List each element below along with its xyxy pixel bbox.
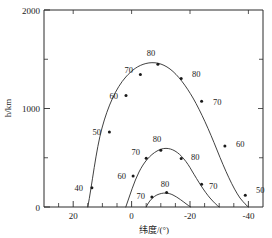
marker-mid-70 xyxy=(145,157,148,160)
point-label-mid-60: 60 xyxy=(118,171,127,181)
marker-mid-80-right xyxy=(180,157,183,160)
y-axis-ticks xyxy=(44,10,263,207)
point-label-outer-50-right: 50 xyxy=(256,185,265,195)
x-axis-tick-labels: 20 0 -20 -40 xyxy=(69,211,255,221)
marker-outer-80-left xyxy=(156,63,159,66)
x-axis-title: 纬度/(°) xyxy=(139,224,169,235)
chart-container: 0 1000 2000 h/km xyxy=(0,0,272,238)
point-label-mid-80-right: 80 xyxy=(191,152,200,162)
point-label-outer-70: 70 xyxy=(125,65,134,75)
point-label-outer-60-right: 60 xyxy=(236,139,245,149)
point-label-inner-80: 80 xyxy=(161,179,170,189)
axis-frame-top-right xyxy=(44,10,263,207)
marker-outer-80-right xyxy=(180,77,183,80)
marker-outer-50-right xyxy=(244,194,247,197)
point-label-outer-60: 60 xyxy=(110,91,119,101)
marker-mid-60 xyxy=(132,175,135,178)
point-label-mid-70-right: 70 xyxy=(209,181,218,191)
latitude-height-trajectory-chart: 0 1000 2000 h/km xyxy=(0,0,272,238)
x-tick-label-0: 0 xyxy=(129,211,134,221)
marker-mid-70-right xyxy=(200,183,203,186)
axis-frame-left-bottom xyxy=(44,10,263,207)
y-tick-label-1000: 1000 xyxy=(22,104,41,114)
x-tick-label-minus20: -20 xyxy=(184,211,196,221)
trajectory-outer-markers xyxy=(90,63,246,197)
y-tick-label-0: 0 xyxy=(36,203,41,213)
marker-outer-70 xyxy=(139,73,142,76)
y-axis-tick-labels: 0 1000 2000 xyxy=(22,6,41,213)
point-label-outer-80-right: 80 xyxy=(192,69,201,79)
marker-outer-40 xyxy=(90,186,93,189)
marker-inner-70 xyxy=(150,196,153,199)
trajectory-curve-inner xyxy=(146,193,191,207)
marker-mid-80-left xyxy=(159,149,162,152)
point-label-outer-70-right: 70 xyxy=(213,97,222,107)
trajectory-outer-labels: 40 50 60 70 80 80 70 60 50 xyxy=(75,48,265,195)
marker-inner-80 xyxy=(165,191,168,194)
point-label-outer-80-top: 80 xyxy=(147,48,156,58)
x-tick-label-20: 20 xyxy=(69,211,79,221)
point-label-outer-40: 40 xyxy=(75,183,84,193)
marker-outer-50 xyxy=(108,131,111,134)
x-tick-label-minus40: -40 xyxy=(242,211,254,221)
trajectory-inner-markers xyxy=(150,191,168,199)
point-label-outer-50: 50 xyxy=(93,127,102,137)
y-tick-label-2000: 2000 xyxy=(22,6,41,16)
marker-outer-70-right xyxy=(200,100,203,103)
marker-outer-60 xyxy=(125,94,128,97)
y-axis-title: h/km xyxy=(3,99,13,118)
point-label-mid-70: 70 xyxy=(132,147,141,157)
point-label-mid-80-top: 80 xyxy=(153,134,162,144)
point-label-inner-70: 70 xyxy=(137,191,146,201)
marker-outer-60-right xyxy=(223,145,226,148)
x-axis-ticks xyxy=(59,10,249,207)
